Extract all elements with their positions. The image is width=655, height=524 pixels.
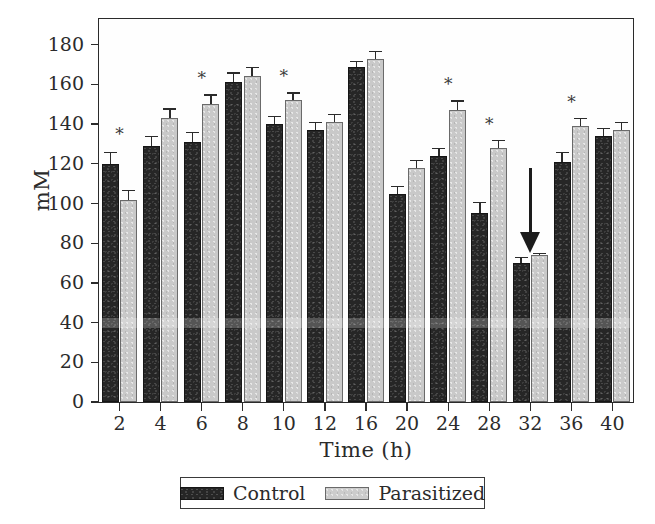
bar-control-10h [266, 124, 283, 402]
error-bar [533, 253, 546, 255]
error-bar-stem [292, 92, 293, 100]
x-tick-label: 8 [221, 414, 265, 433]
error-bar-stem [375, 51, 376, 59]
error-bar [369, 51, 382, 59]
y-tick-mark [91, 123, 99, 124]
x-tick-label: 16 [344, 414, 388, 433]
arrow-head-icon [520, 232, 540, 253]
y-tick-mark [91, 84, 99, 85]
x-tick-label: 2 [98, 414, 142, 433]
bar-parasitized-4h [161, 118, 178, 402]
error-bar [410, 160, 423, 168]
legend-entry-parasitized: Parasitized [325, 482, 485, 504]
error-bar-stem [397, 186, 398, 194]
error-bar-stem [580, 118, 581, 126]
y-tick-label: 0 [36, 392, 84, 411]
y-tick-label: 140 [36, 114, 84, 133]
error-bar [432, 148, 445, 156]
y-tick-mark [91, 203, 99, 204]
x-tick-mark [571, 403, 572, 411]
x-tick-mark [612, 403, 613, 411]
error-bar-stem [251, 67, 252, 77]
x-tick-label: 4 [139, 414, 183, 433]
error-bar-stem [621, 122, 622, 130]
error-bar [227, 72, 240, 82]
x-tick-mark [242, 403, 243, 411]
bar-chart-figure: mM Time (h) 020406080100120140160180 246… [0, 0, 655, 524]
error-bar-stem [416, 160, 417, 168]
error-bar-stem [274, 116, 275, 124]
error-bar [204, 94, 217, 104]
error-bar [515, 257, 528, 263]
y-tick-label: 80 [36, 233, 84, 252]
y-tick-mark [91, 44, 99, 45]
x-tick-label: 24 [426, 414, 470, 433]
bar-parasitized-12h [326, 122, 343, 402]
error-bar-stem [210, 94, 211, 104]
error-bar [309, 122, 322, 130]
x-axis-title: Time (h) [98, 438, 634, 462]
significance-asterisk-10h: * [276, 68, 292, 85]
significance-asterisk-36h: * [563, 94, 579, 111]
y-tick-mark [91, 401, 99, 402]
x-tick-mark [160, 403, 161, 411]
bar-parasitized-32h [531, 255, 548, 402]
y-tick-label: 160 [36, 74, 84, 93]
x-tick-label: 40 [590, 414, 634, 433]
x-tick-label: 32 [508, 414, 552, 433]
bar-control-20h [389, 194, 406, 402]
error-bar [186, 132, 199, 142]
y-tick-label: 120 [36, 154, 84, 173]
arrow-shaft [529, 168, 532, 232]
error-bar-stem [356, 61, 357, 67]
error-bar-stem [315, 122, 316, 130]
bar-control-2h [102, 164, 119, 402]
bar-parasitized-6h [202, 104, 219, 402]
error-bar [597, 128, 610, 136]
bar-parasitized-36h [572, 126, 589, 402]
bar-parasitized-40h [613, 130, 630, 402]
x-tick-label: 12 [303, 414, 347, 433]
error-bar [391, 186, 404, 194]
bar-control-4h [143, 146, 160, 402]
x-tick-mark [324, 403, 325, 411]
error-bar-stem [128, 190, 129, 200]
x-tick-mark [201, 403, 202, 411]
bar-control-8h [225, 82, 242, 402]
y-tick-label: 20 [36, 352, 84, 371]
x-tick-label: 28 [467, 414, 511, 433]
x-tick-mark [489, 403, 490, 411]
x-tick-mark [448, 403, 449, 411]
bar-parasitized-16h [367, 59, 384, 402]
x-tick-label: 36 [549, 414, 593, 433]
bar-control-24h [430, 156, 447, 402]
error-bar-stem [233, 72, 234, 82]
error-bar-stem [192, 132, 193, 142]
error-bar [556, 152, 569, 162]
bar-control-40h [595, 136, 612, 402]
bar-parasitized-10h [285, 100, 302, 402]
y-tick-mark [91, 282, 99, 283]
x-tick-label: 10 [262, 414, 306, 433]
significance-asterisk-2h: * [112, 126, 128, 143]
error-bar-stem [438, 148, 439, 156]
legend-entry-control: Control [180, 482, 305, 504]
y-tick-mark [91, 362, 99, 363]
error-bar-stem [151, 136, 152, 146]
y-tick-label: 180 [36, 35, 84, 54]
bar-control-32h [513, 263, 530, 402]
error-bar [451, 100, 464, 110]
bar-parasitized-20h [408, 168, 425, 402]
error-bar-stem [479, 202, 480, 214]
significance-asterisk-28h: * [481, 116, 497, 133]
y-tick-mark [91, 322, 99, 323]
significance-asterisk-24h: * [440, 76, 456, 93]
error-bar [615, 122, 628, 130]
bar-control-16h [348, 67, 365, 402]
legend-label-control: Control [233, 482, 305, 504]
y-tick-label: 100 [36, 194, 84, 213]
error-bar [574, 118, 587, 126]
error-bar-stem [498, 140, 499, 148]
error-bar-stem [539, 253, 540, 255]
parasitized-swatch-icon [325, 487, 369, 500]
